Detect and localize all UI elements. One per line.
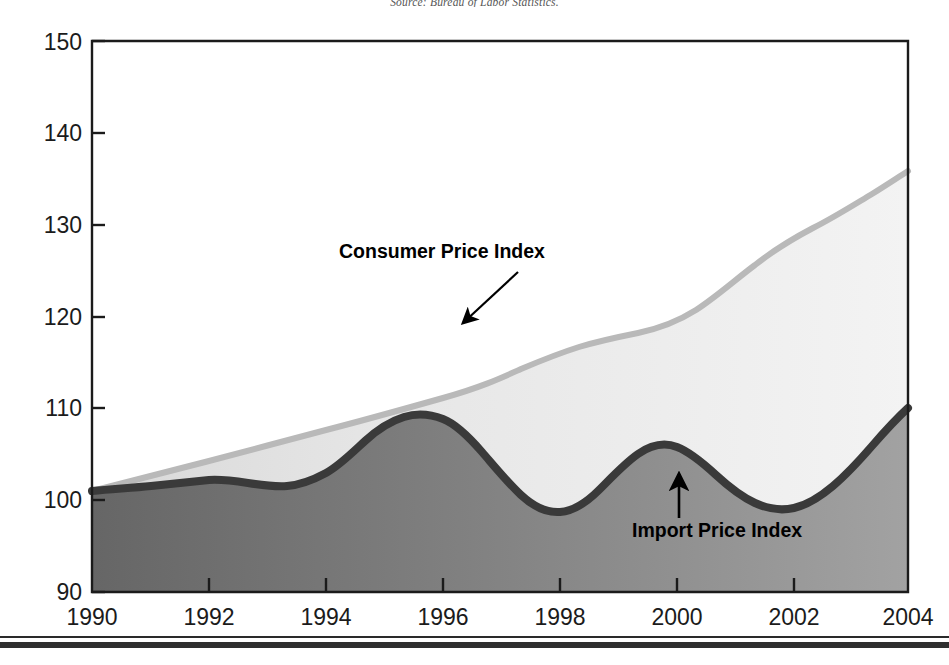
bottom-rule-thick xyxy=(0,642,949,648)
y-tick-label: 150 xyxy=(44,29,82,55)
bottom-rule-thin xyxy=(0,636,949,638)
cpi-annotation-arrow xyxy=(463,272,518,323)
price-index-area-chart: 90 100 110 120 130 140 150 1990 1992 199… xyxy=(0,0,949,640)
y-tick-label: 120 xyxy=(44,304,82,330)
y-tick-label: 110 xyxy=(45,395,82,421)
cpi-series-label: Consumer Price Index xyxy=(339,240,545,262)
x-tick-label: 1994 xyxy=(300,604,351,630)
y-tick-label: 100 xyxy=(44,487,82,513)
x-tick-label: 1992 xyxy=(183,604,234,630)
x-tick-label: 1998 xyxy=(534,604,585,630)
y-tick-label: 90 xyxy=(56,579,82,605)
x-tick-label: 2004 xyxy=(882,604,933,630)
x-tick-label: 1996 xyxy=(417,604,468,630)
x-axis-labels: 1990 1992 1994 1996 1998 2000 2002 2004 xyxy=(66,604,933,630)
chart-figure: 90 100 110 120 130 140 150 1990 1992 199… xyxy=(0,0,949,640)
x-tick-label: 1990 xyxy=(66,604,117,630)
x-tick-label: 2002 xyxy=(768,604,819,630)
y-tick-label: 130 xyxy=(44,212,82,238)
x-tick-label: 2000 xyxy=(651,604,702,630)
y-axis-labels: 90 100 110 120 130 140 150 xyxy=(44,29,82,605)
import-series-label: Import Price Index xyxy=(632,519,802,541)
y-tick-label: 140 xyxy=(44,120,82,146)
